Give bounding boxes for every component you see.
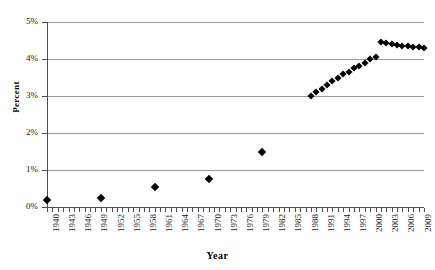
x-tick-mark xyxy=(90,208,91,212)
x-tick-mark xyxy=(252,208,253,212)
x-tick-label: 1970 xyxy=(213,214,223,232)
x-tick-mark xyxy=(349,208,350,212)
x-tick-mark xyxy=(316,208,317,212)
x-tick-mark xyxy=(171,208,172,212)
x-tick-mark xyxy=(386,208,387,212)
x-tick-mark xyxy=(225,208,226,212)
x-tick-label: 1949 xyxy=(99,214,109,232)
gridline xyxy=(47,96,424,97)
x-tick-label: 2006 xyxy=(406,214,416,232)
x-tick-mark xyxy=(365,208,366,212)
x-tick-mark xyxy=(106,208,107,212)
x-tick-mark xyxy=(69,208,70,212)
x-tick-mark xyxy=(289,208,290,212)
x-tick-mark xyxy=(112,208,113,212)
x-tick-mark xyxy=(370,208,371,212)
x-tick-mark xyxy=(187,208,188,212)
x-tick-mark xyxy=(219,208,220,212)
x-tick-mark xyxy=(58,208,59,212)
y-tick-label: 1% xyxy=(0,165,38,174)
x-tick-mark xyxy=(300,208,301,212)
x-tick-label: 1955 xyxy=(132,214,142,232)
x-tick-mark xyxy=(63,208,64,212)
x-tick-mark xyxy=(279,208,280,212)
x-tick-mark xyxy=(257,208,258,212)
x-tick-mark xyxy=(47,208,48,212)
gridline xyxy=(47,170,424,171)
x-tick-mark xyxy=(101,208,102,212)
x-tick-mark xyxy=(182,208,183,212)
y-tick-mark xyxy=(42,133,47,134)
y-tick-mark xyxy=(42,96,47,97)
plot-area xyxy=(47,22,424,207)
x-tick-mark xyxy=(139,208,140,212)
x-tick-mark xyxy=(392,208,393,212)
percent-by-year-scatter-chart: 0%1%2%3%4%5% 194019431946194919521955195… xyxy=(0,0,435,270)
gridline xyxy=(47,22,424,23)
x-tick-mark xyxy=(402,208,403,212)
x-tick-label: 1940 xyxy=(51,214,61,232)
x-tick-label: 1979 xyxy=(261,214,271,232)
x-tick-mark xyxy=(160,208,161,212)
x-tick-mark xyxy=(306,208,307,212)
x-tick-label: 2000 xyxy=(374,214,384,232)
x-tick-mark xyxy=(419,208,420,212)
x-tick-mark xyxy=(117,208,118,212)
x-tick-mark xyxy=(144,208,145,212)
x-tick-mark xyxy=(52,208,53,212)
x-tick-mark xyxy=(230,208,231,212)
x-tick-mark xyxy=(424,208,425,212)
x-tick-mark xyxy=(268,208,269,212)
x-tick-mark xyxy=(354,208,355,212)
x-tick-mark xyxy=(376,208,377,212)
x-tick-label: 1976 xyxy=(245,214,255,232)
x-tick-label: 1973 xyxy=(229,214,239,232)
x-tick-label: 2003 xyxy=(390,214,400,232)
x-tick-mark xyxy=(322,208,323,212)
x-axis-title: Year xyxy=(0,250,435,261)
x-tick-label: 1988 xyxy=(310,214,320,232)
x-tick-mark xyxy=(79,208,80,212)
x-tick-mark xyxy=(133,208,134,212)
x-tick-mark xyxy=(311,208,312,212)
x-tick-mark xyxy=(295,208,296,212)
x-tick-mark xyxy=(198,208,199,212)
x-tick-mark xyxy=(397,208,398,212)
x-tick-mark xyxy=(332,208,333,212)
x-tick-mark xyxy=(155,208,156,212)
x-tick-label: 1946 xyxy=(83,214,93,232)
x-tick-mark xyxy=(338,208,339,212)
y-tick-label: 0% xyxy=(0,202,38,211)
x-tick-mark xyxy=(85,208,86,212)
x-tick-mark xyxy=(149,208,150,212)
x-tick-label: 1991 xyxy=(326,214,336,232)
x-tick-mark xyxy=(413,208,414,212)
x-tick-label: 1958 xyxy=(148,214,158,232)
y-tick-mark xyxy=(42,59,47,60)
y-tick-label: 5% xyxy=(0,17,38,26)
x-tick-label: 1952 xyxy=(116,214,126,232)
x-tick-mark xyxy=(236,208,237,212)
x-tick-mark xyxy=(74,208,75,212)
y-axis-title: Percent xyxy=(11,57,21,137)
x-tick-mark xyxy=(128,208,129,212)
x-tick-mark xyxy=(381,208,382,212)
x-tick-label: 1961 xyxy=(164,214,174,232)
x-tick-label: 1982 xyxy=(277,214,287,232)
x-tick-mark xyxy=(241,208,242,212)
gridline xyxy=(47,133,424,134)
x-tick-label: 2009 xyxy=(423,214,433,232)
x-tick-mark xyxy=(262,208,263,212)
x-tick-label: 1964 xyxy=(180,214,190,232)
x-tick-mark xyxy=(209,208,210,212)
x-tick-label: 1967 xyxy=(196,214,206,232)
x-tick-mark xyxy=(165,208,166,212)
x-tick-mark xyxy=(343,208,344,212)
x-tick-mark xyxy=(284,208,285,212)
x-tick-mark xyxy=(176,208,177,212)
x-tick-mark xyxy=(203,208,204,212)
y-tick-mark xyxy=(42,170,47,171)
x-tick-label: 1994 xyxy=(342,214,352,232)
x-tick-label: 1943 xyxy=(67,214,77,232)
x-tick-label: 1997 xyxy=(358,214,368,232)
